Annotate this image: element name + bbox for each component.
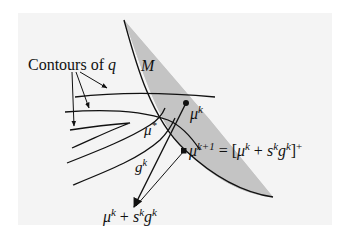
pointer-arrow-2 <box>76 72 89 108</box>
point-mu-k <box>183 100 189 106</box>
mu-k1-closesup: + <box>296 140 302 152</box>
mu-star-base: μ <box>144 122 152 138</box>
pointer-arrow-3 <box>72 72 74 126</box>
contour-line-3 <box>70 123 130 148</box>
contours-label-var: q <box>108 56 116 73</box>
contour-line-1 <box>75 94 215 97</box>
g-k-label: gk <box>135 160 147 175</box>
mu-k1-mu: μ <box>237 142 245 159</box>
point-mu-k1 <box>181 148 187 154</box>
set-m-label: M <box>141 58 154 74</box>
mu-k-sup: k <box>198 103 203 115</box>
step-point-label: μk + skgk <box>103 209 157 225</box>
step-gsup: k <box>152 206 157 218</box>
contour-line-5 <box>73 118 175 185</box>
step-plus: + <box>116 208 133 225</box>
contours-label: Contours of q <box>28 57 116 73</box>
mu-star-sup: * <box>152 120 157 131</box>
mu-k1-base: μ <box>189 142 197 159</box>
subgradient-projection-diagram <box>0 0 342 237</box>
g-k-sup: k <box>143 157 148 168</box>
mu-k1-g: g <box>278 142 286 159</box>
mu-k1-label: μk+1 = [μk + skgk]+ <box>189 143 302 159</box>
g-k-base: g <box>135 159 143 175</box>
step-g: g <box>144 208 152 225</box>
contours-label-text: Contours of <box>28 56 108 73</box>
pointer-arrow-1 <box>80 72 107 88</box>
mu-k-base: μ <box>190 105 198 122</box>
mu-k1-sup: k+1 <box>197 140 215 152</box>
mu-star-label: μ* <box>144 123 157 138</box>
mu-k1-plus: + <box>250 142 267 159</box>
mu-k1-eq: = [ <box>215 142 237 159</box>
step-mu: μ <box>103 208 111 225</box>
mu-k-label: μk <box>190 106 203 122</box>
